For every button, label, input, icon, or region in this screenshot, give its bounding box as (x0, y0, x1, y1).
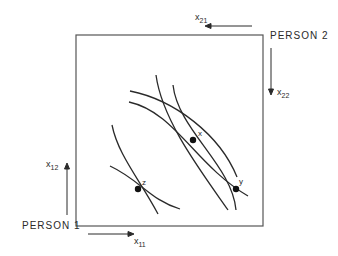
x21-label: x21 (195, 13, 207, 24)
point-y-marker (233, 186, 239, 192)
x21-arrowhead-icon (205, 24, 211, 29)
x12-label: x12 (46, 160, 58, 171)
point-z-marker (135, 186, 141, 192)
box-frame (76, 35, 263, 226)
person-2-label: PERSON 2 (270, 31, 329, 41)
x22-arrowhead-icon (269, 89, 274, 95)
point-y-label: y (239, 178, 243, 186)
point-z-label: z (142, 179, 146, 187)
point-x-marker (190, 137, 196, 143)
indifference-curve-p1-b (173, 85, 236, 210)
person-1-label: PERSON 1 (22, 221, 81, 231)
x11-label: x11 (134, 237, 146, 248)
indifference-curve-z-a (112, 125, 158, 214)
indifference-curve-z-b (110, 166, 180, 209)
x12-arrowhead-icon (65, 163, 70, 169)
indifference-curve-p2-a (130, 91, 237, 177)
point-x-label: x (198, 130, 202, 138)
indifference-curve-p2-b (129, 102, 248, 196)
x22-label: x22 (277, 88, 289, 99)
